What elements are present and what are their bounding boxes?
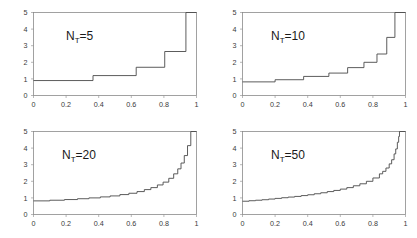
y-tick-label: 3 [233,41,237,50]
y-tick-label: 0 [233,210,237,219]
x-tick-label: 0.4 [94,219,104,228]
annotation-base: N [62,148,71,162]
y-tick-label: 1 [233,75,237,84]
x-tick-label: 0.6 [126,100,136,109]
step-curve [243,132,406,202]
y-tick-label: 2 [233,177,237,186]
chart-panel-nt50: 00.20.40.60.81012345 NT=50 [209,119,417,238]
x-tick-label: 1 [404,219,408,228]
y-tick-label: 2 [24,58,28,67]
y-tick-label: 2 [233,58,237,67]
panel-annotation: NT=5 [66,29,94,45]
chart-svg-nt5: 00.20.40.60.81012345 NT=5 [0,0,208,119]
x-tick-label: 0.4 [94,100,104,109]
chart-panel-nt10: 00.20.40.60.81012345 NT=10 [209,0,417,119]
chart-panel-nt5: 00.20.40.60.81012345 NT=5 [0,0,208,119]
x-tick-label: 1 [195,100,199,109]
y-tick-label: 4 [233,144,237,153]
y-tick-label: 3 [24,160,28,169]
x-tick-label: 0.8 [159,100,169,109]
x-tick-label: 0.2 [270,100,280,109]
x-tick-label: 0.6 [126,219,136,228]
x-tick-label: 0.4 [303,219,313,228]
step-curve [34,13,197,81]
x-tick-label: 0.8 [368,100,378,109]
y-tick-label: 3 [24,41,28,50]
x-tick-label: 1 [404,100,408,109]
step-curve [243,13,406,82]
x-tick-label: 0.4 [303,100,313,109]
chart-svg-nt50: 00.20.40.60.81012345 NT=50 [209,119,417,238]
annotation-base: N [271,148,280,162]
y-tick-label: 4 [24,25,28,34]
y-tick-label: 0 [24,91,28,100]
x-tick-label: 0.6 [335,219,345,228]
x-tick-label: 0.2 [61,100,71,109]
x-tick-label: 0 [32,219,36,228]
x-tick-label: 0 [32,100,36,109]
chart-panel-nt20: 00.20.40.60.81012345 NT=20 [0,119,208,238]
y-tick-label: 0 [24,210,28,219]
y-tick-label: 5 [24,127,28,136]
y-tick-label: 2 [24,177,28,186]
plot-frame [34,13,197,96]
x-tick-label: 0.6 [335,100,345,109]
y-tick-label: 5 [24,8,28,17]
panel-annotation: NT=50 [271,148,305,164]
chart-svg-nt10: 00.20.40.60.81012345 NT=10 [209,0,417,119]
x-tick-label: 1 [195,219,199,228]
axis-layer-3: 00.20.40.60.81012345 [233,127,408,227]
y-tick-label: 4 [233,25,237,34]
x-tick-label: 0 [241,100,245,109]
y-tick-label: 3 [233,160,237,169]
y-tick-label: 0 [233,91,237,100]
y-tick-label: 5 [233,127,237,136]
y-tick-label: 5 [233,8,237,17]
annotation-base: N [66,29,75,43]
y-tick-label: 1 [233,194,237,203]
x-tick-label: 0.8 [159,219,169,228]
annotation-rest: =50 [285,148,306,162]
x-tick-label: 0.8 [368,219,378,228]
annotation-rest: =20 [76,148,97,162]
plot-frame [243,132,406,215]
axis-layer-2: 00.20.40.60.81012345 [24,127,199,227]
chart-svg-nt20: 00.20.40.60.81012345 NT=20 [0,119,208,238]
panel-annotation: NT=10 [271,29,305,45]
x-tick-label: 0 [241,219,245,228]
y-tick-label: 4 [24,144,28,153]
annotation-rest: =10 [285,29,306,43]
figure-grid: 00.20.40.60.81012345 NT=5 00.20.40.60.81… [0,0,417,238]
axis-layer-0: 00.20.40.60.81012345 [24,8,199,108]
y-tick-label: 1 [24,75,28,84]
plot-frame [34,132,197,215]
step-curve [34,132,197,201]
panel-annotation: NT=20 [62,148,96,164]
axis-layer-1: 00.20.40.60.81012345 [233,8,408,108]
x-tick-label: 0.2 [270,219,280,228]
annotation-rest: =5 [80,29,94,43]
y-tick-label: 1 [24,194,28,203]
x-tick-label: 0.2 [61,219,71,228]
annotation-base: N [271,29,280,43]
